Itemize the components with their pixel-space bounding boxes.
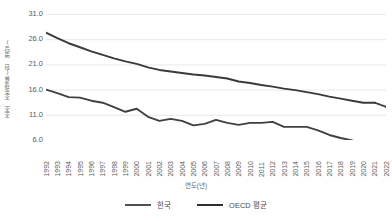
x-tick-label: 2009: [235, 161, 242, 177]
x-tick-label: 2006: [201, 161, 208, 177]
x-tick-label: 2004: [179, 161, 186, 177]
legend-item[interactable]: OECD 평균: [197, 199, 267, 210]
x-tick-label: 2011: [258, 162, 265, 177]
x-tick-label: 1996: [88, 161, 95, 177]
line-chart: 조조 조출생률(천 명당) 31.026.021.016.011.06.0 19…: [0, 0, 392, 221]
x-tick-label: 2003: [167, 161, 174, 177]
legend-label: 한국: [157, 199, 171, 210]
x-tick-label: 1994: [65, 161, 72, 177]
x-tick-label: 1992: [43, 161, 50, 177]
x-tick-label: 2021: [371, 161, 378, 177]
plot-area: [46, 14, 386, 140]
x-tick-label: 1993: [54, 161, 61, 177]
x-tick-label: 2001: [145, 161, 152, 177]
x-tick-label: 1997: [99, 161, 106, 177]
x-tick-label: 2007: [213, 161, 220, 177]
series-line-2: [46, 33, 375, 103]
x-tick-label: 2019: [349, 161, 356, 177]
x-tick-label: 1995: [77, 161, 84, 177]
y-tick-label: 16.0: [16, 86, 43, 94]
x-tick-label: 2005: [190, 161, 197, 177]
x-tick-label: 2010: [247, 161, 254, 177]
x-tick-label: 2014: [292, 161, 299, 177]
legend-swatch-line-icon: [197, 204, 223, 206]
series-line-2: [375, 103, 386, 107]
chart-legend: 한국OECD 평균: [0, 199, 392, 210]
y-tick-label: 31.0: [16, 10, 43, 18]
x-tick-label: 2016: [315, 161, 322, 177]
legend-swatch-line-icon: [125, 204, 151, 206]
x-tick-label: 2008: [224, 161, 231, 177]
y-tick-label: 21.0: [16, 60, 43, 68]
x-tick-label: 2015: [303, 161, 310, 177]
x-tick-label: 2002: [156, 161, 163, 177]
x-tick-label: 2018: [337, 161, 344, 177]
legend-item[interactable]: 한국: [125, 199, 171, 210]
plot-svg: [46, 14, 386, 140]
x-tick-label: 2013: [281, 161, 288, 177]
x-tick-label: 2000: [133, 161, 140, 177]
x-tick-label: 2012: [269, 161, 276, 177]
x-tick-label: 2017: [326, 161, 333, 177]
y-tick-label: 26.0: [16, 35, 43, 43]
legend-label: OECD 평균: [229, 199, 267, 210]
x-tick-label: 2022: [383, 161, 390, 177]
y-tick-label: 6.0: [16, 136, 43, 144]
x-tick-label: 1999: [122, 161, 129, 177]
x-axis-tick-labels: 1992199319941995199619971998199920002001…: [46, 141, 386, 177]
x-tick-label: 2020: [360, 161, 367, 177]
y-tick-label: 11.0: [16, 111, 43, 119]
x-tick-label: 1998: [111, 161, 118, 177]
y-axis-title: 조조 조출생률(천 명당): [1, 24, 15, 134]
x-axis-title: 연도(년): [0, 180, 392, 190]
